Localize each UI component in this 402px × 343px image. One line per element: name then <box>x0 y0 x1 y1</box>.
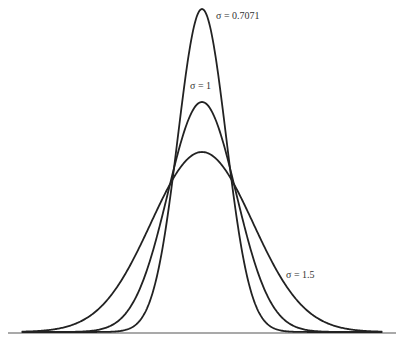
series-label: σ = 0.7071 <box>216 10 260 21</box>
curve-sigma-1_5 <box>22 152 382 332</box>
curve-sigma-1 <box>22 102 382 332</box>
normal-distribution-chart <box>0 0 402 343</box>
curve-sigma-0_7071 <box>22 9 382 332</box>
curve-group <box>22 9 382 332</box>
series-label: σ = 1 <box>190 80 211 91</box>
series-label: σ = 1.5 <box>286 269 315 280</box>
